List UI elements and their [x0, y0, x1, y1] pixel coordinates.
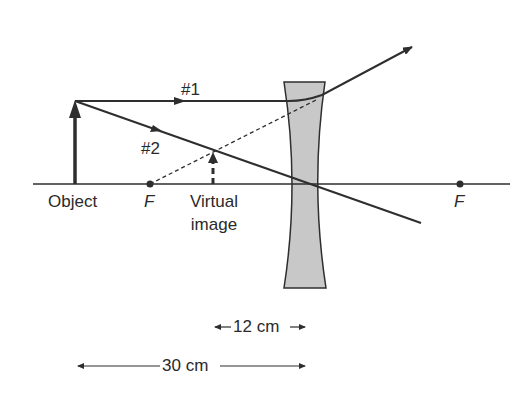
ray-1	[75, 47, 412, 101]
ray-2-direction-arrow	[150, 125, 162, 132]
focal-right-label: F	[454, 192, 464, 212]
ray-2-label: #2	[141, 139, 160, 159]
focal-point-right	[457, 181, 464, 188]
dimension-12cm-label: 12 cm	[233, 317, 279, 337]
object-label: Object	[48, 192, 97, 212]
ray-2	[75, 101, 421, 223]
focal-point-left	[147, 181, 154, 188]
dimension-30cm-label: 30 cm	[162, 356, 208, 376]
ray-1-label: #1	[181, 80, 200, 100]
virtual-image-label-line2: image	[186, 215, 242, 235]
virtual-image-label-line1: Virtual	[186, 192, 242, 212]
focal-left-label: F	[144, 192, 154, 212]
